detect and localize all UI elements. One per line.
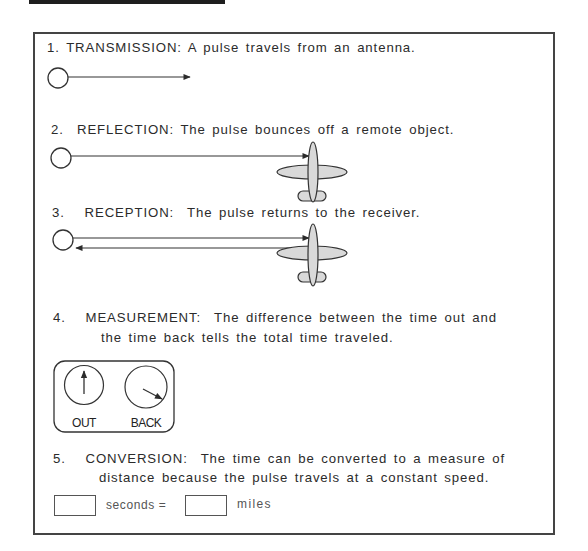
step-3-graphic xyxy=(53,224,347,286)
seconds-input-box[interactable] xyxy=(54,495,96,516)
out-label: OUT xyxy=(72,416,97,430)
step-2-graphic xyxy=(51,142,347,202)
back-dial: BACK xyxy=(125,366,167,430)
antenna-icon xyxy=(51,148,71,168)
step-4-graphic: OUT BACK xyxy=(54,361,174,432)
airplane-icon xyxy=(277,142,347,202)
airplane-icon xyxy=(277,224,347,286)
miles-label: miles xyxy=(237,497,272,511)
radar-diagram: OUT BACK xyxy=(0,0,588,551)
antenna-icon xyxy=(53,230,73,250)
step-1-graphic xyxy=(48,68,190,88)
antenna-icon xyxy=(48,68,68,88)
back-label: BACK xyxy=(131,416,162,430)
seconds-label: seconds = xyxy=(106,498,166,512)
miles-input-box[interactable] xyxy=(185,495,227,516)
